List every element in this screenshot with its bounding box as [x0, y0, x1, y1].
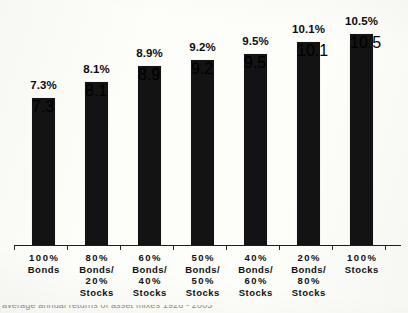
x-axis-label-line: 100%	[16, 252, 72, 264]
bar[interactable]: 9.5	[244, 54, 267, 245]
x-axis-label-line: 20%	[69, 275, 125, 287]
x-axis-tick	[14, 246, 15, 250]
bar[interactable]: 10.5	[350, 34, 373, 245]
x-axis-label-line: 60%	[228, 275, 284, 287]
bar[interactable]: 9.2	[191, 60, 214, 245]
x-axis-label: 100%Bonds	[16, 252, 72, 275]
x-axis-label: 100%Stocks	[334, 252, 390, 275]
x-axis-label-line: 80%	[281, 275, 337, 287]
chart-page: 7.37.3%8.18.1%8.98.9%9.29.2%9.59.5%10.11…	[0, 0, 408, 313]
bar-slot: 8.18.1%	[70, 0, 123, 246]
x-axis-label-line: 100%	[334, 252, 390, 264]
x-axis-label-line: Bonds/	[69, 264, 125, 276]
x-axis-label-line: Stocks	[175, 287, 231, 299]
x-axis-label-line: Bonds/	[175, 264, 231, 276]
x-axis-label-line: Stocks	[281, 287, 337, 299]
x-axis-label-line: 50%	[175, 252, 231, 264]
bar-slot: 10.510.5%	[335, 0, 388, 246]
x-axis-tick	[67, 246, 68, 250]
x-axis-label-line: Bonds/	[281, 264, 337, 276]
x-axis-tick	[226, 246, 227, 250]
bar-slot: 8.98.9%	[123, 0, 176, 246]
bar-slot: 9.59.5%	[229, 0, 282, 246]
bar-chart-plot-area: 7.37.3%8.18.1%8.98.9%9.29.2%9.59.5%10.11…	[0, 0, 408, 246]
x-axis-label-line: Stocks	[122, 287, 178, 299]
x-axis-label-line: 80%	[69, 252, 125, 264]
bar-value-label: 9.5%	[229, 35, 282, 47]
x-axis-tick	[385, 246, 386, 250]
x-axis-label-line: Stocks	[334, 264, 390, 276]
x-axis-label-line: 60%	[122, 252, 178, 264]
x-axis-tick	[173, 246, 174, 250]
x-axis-label-line: Stocks	[228, 287, 284, 299]
x-axis-label-line: Stocks	[69, 287, 125, 299]
footer-caption-text: average annual returns of asset mixes 19…	[2, 305, 212, 310]
footer-clipped-caption: average annual returns of asset mixes 19…	[0, 305, 408, 313]
x-axis-label-line: 40%	[122, 275, 178, 287]
x-axis-label: 40%Bonds/60%Stocks	[228, 252, 284, 298]
x-axis-label: 50%Bonds/50%Stocks	[175, 252, 231, 298]
bar-slot: 10.110.1%	[282, 0, 335, 246]
x-axis-label: 60%Bonds/40%Stocks	[122, 252, 178, 298]
x-axis-label: 80%Bonds/20%Stocks	[69, 252, 125, 298]
bar[interactable]: 7.3	[32, 98, 55, 245]
x-axis-label-line: Bonds	[16, 264, 72, 276]
x-axis-label-line: 20%	[281, 252, 337, 264]
x-axis-label-line: 40%	[228, 252, 284, 264]
x-axis-tick	[279, 246, 280, 250]
bar[interactable]: 8.9	[138, 66, 161, 245]
x-axis-label-line: Bonds/	[122, 264, 178, 276]
x-axis-category-labels: 100%Bonds80%Bonds/20%Stocks60%Bonds/40%S…	[0, 252, 408, 310]
bar-value-label: 8.1%	[70, 63, 123, 75]
x-axis-label-line: 50%	[175, 275, 231, 287]
bar-value-label: 9.2%	[176, 41, 229, 53]
x-axis-label: 20%Bonds/80%Stocks	[281, 252, 337, 298]
x-axis-tick	[332, 246, 333, 250]
bar-slot: 7.37.3%	[17, 0, 70, 246]
bar[interactable]: 8.1	[85, 82, 108, 245]
bar-value-label: 10.5%	[335, 15, 388, 27]
bar-value-label: 8.9%	[123, 47, 176, 59]
bar-slot: 9.29.2%	[176, 0, 229, 246]
x-axis-line	[14, 245, 401, 246]
x-axis-label-line: Bonds/	[228, 264, 284, 276]
bar-value-label: 10.1%	[282, 23, 335, 35]
bar-value-label: 7.3%	[17, 79, 70, 91]
x-axis-tick	[120, 246, 121, 250]
bar[interactable]: 10.1	[297, 42, 320, 245]
